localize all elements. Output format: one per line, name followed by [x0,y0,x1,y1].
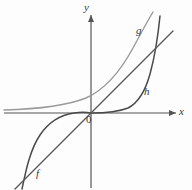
x-axis-arrow-icon [169,110,176,116]
y-axis-arrow-icon [88,15,94,22]
graph-figure: y x 0 f g h [0,0,192,190]
curve-f-label: f [36,168,39,179]
x-axis-label: x [179,106,184,117]
y-axis-label: y [84,2,89,13]
curve-h-label: h [144,86,150,97]
origin-label: 0 [86,114,92,125]
graph-canvas [0,0,192,190]
curve-g [4,12,153,110]
curve-g-label: g [136,25,142,36]
curve-h-right [91,16,160,113]
curve-f [15,31,173,189]
